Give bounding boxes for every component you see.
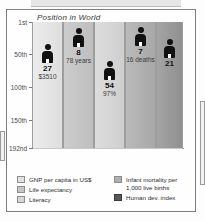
chart-legend: GNP per capita in US$ Life expectancy Li…	[17, 176, 192, 208]
legend-item-infant-mortality[interactable]: Infant mortality per 1,000 live births	[114, 176, 177, 191]
ytick-label-50th: 50th	[14, 51, 27, 58]
bar-column-human-dev-index[interactable]: 21	[156, 22, 183, 148]
bar-column-infant-mortality[interactable]: 7 16 deaths	[125, 22, 156, 148]
value-label: 97%	[103, 90, 116, 98]
rank-label: 21	[165, 59, 174, 68]
rank-label: 7	[138, 47, 142, 56]
column-band	[33, 22, 62, 148]
person-icon	[41, 44, 55, 63]
bar-column-literacy[interactable]: 54 97%	[94, 22, 125, 148]
legend-swatch-icon	[114, 194, 122, 201]
legend-item-literacy[interactable]: Literacy	[17, 196, 91, 204]
legend-swatch-icon	[17, 176, 25, 183]
page-edge-top	[31, 0, 181, 7]
legend-item-human-dev-index[interactable]: Human dev. index	[114, 194, 177, 202]
legend-item-gnp-per-capita[interactable]: GNP per capita in US$	[17, 176, 91, 184]
legend-item-life-expectancy[interactable]: Life expectancy	[17, 186, 91, 194]
ytick-label-192nd: 192nd	[9, 145, 27, 152]
page-edge-left	[0, 131, 5, 161]
legend-label: Life expectancy	[29, 186, 72, 194]
legend-label: Infant mortality per 1,000 live births	[126, 176, 177, 191]
bar-column-gnp-per-capita[interactable]: 27 $3510	[32, 22, 63, 148]
person-icon	[72, 28, 86, 47]
value-label: 78 years	[66, 57, 91, 65]
legend-label: GNP per capita in US$	[29, 176, 91, 184]
ytick-label-150th: 150th	[11, 117, 27, 124]
rank-label: 54	[105, 81, 114, 90]
rank-label: 27	[43, 64, 52, 73]
person-icon	[163, 39, 177, 58]
ytick-label-1st: 1st	[18, 19, 27, 26]
value-label: 16 deaths	[126, 56, 155, 64]
bar-column-life-expectancy[interactable]: 8 78 years	[63, 22, 94, 148]
chart-figure: Position in World 1st 50th 100th 150th 1…	[0, 0, 205, 221]
legend-swatch-icon	[114, 176, 122, 183]
legend-swatch-icon	[17, 196, 25, 203]
gridline-192nd: 192nd	[32, 148, 183, 149]
legend-column-right: Infant mortality per 1,000 live births H…	[114, 176, 177, 204]
legend-label: Human dev. index	[126, 194, 175, 202]
tick-mark	[29, 148, 33, 149]
person-icon	[134, 27, 148, 46]
legend-column-left: GNP per capita in US$ Life expectancy Li…	[17, 176, 91, 206]
rank-label: 8	[76, 48, 80, 57]
value-label: $3510	[38, 73, 56, 81]
person-icon	[103, 61, 117, 80]
legend-swatch-icon	[17, 186, 25, 193]
ytick-label-100th: 100th	[11, 84, 27, 91]
chart-title: Position in World	[37, 13, 100, 22]
plot-area: 1st 50th 100th 150th 192nd 27 $3510	[32, 22, 183, 148]
page-edge-right	[200, 101, 205, 185]
legend-label: Literacy	[29, 196, 51, 204]
